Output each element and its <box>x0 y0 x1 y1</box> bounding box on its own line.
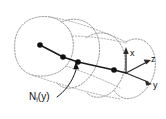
y-axis-line <box>126 73 148 82</box>
x-axis-label: x <box>130 48 135 58</box>
node-dot <box>60 54 66 60</box>
z-axis-line <box>126 62 147 73</box>
callout-leader-line <box>57 70 76 97</box>
x-axis-arrowhead-icon <box>123 47 128 54</box>
shape-function-argument: (y) <box>38 91 50 102</box>
tube-diagram-svg: x z y <box>0 0 166 119</box>
y-axis-label: y <box>153 80 158 90</box>
mid-left-cross-section-contour <box>57 19 100 88</box>
tube-top-silhouette <box>50 17 126 42</box>
node-dot <box>37 42 43 48</box>
z-axis-label: z <box>151 54 156 64</box>
figure-container: x z y Ni(y) <box>0 0 166 119</box>
shape-function-label: Ni(y) <box>29 92 49 103</box>
node-dot <box>111 67 117 73</box>
